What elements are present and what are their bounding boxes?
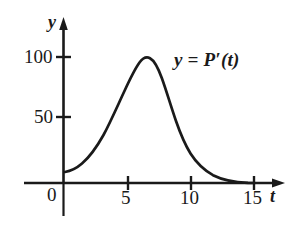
x-tick-label-15: 15 <box>243 188 262 207</box>
curve-p-prime <box>65 57 255 183</box>
curve-annotation-label: y = P′(t) <box>174 50 239 69</box>
x-tick-label-5: 5 <box>121 188 131 207</box>
origin-label: 0 <box>47 185 57 204</box>
x-axis-label: t <box>270 187 275 205</box>
y-tick-label-100: 100 <box>24 47 53 66</box>
y-tick-label-50: 50 <box>34 107 53 126</box>
x-tick-label-10: 10 <box>180 188 199 207</box>
figure-container: y t 100 50 0 5 10 15 y = P′(t) <box>0 0 295 228</box>
y-axis-arrowhead <box>59 17 68 30</box>
y-axis-label: y <box>48 13 56 31</box>
